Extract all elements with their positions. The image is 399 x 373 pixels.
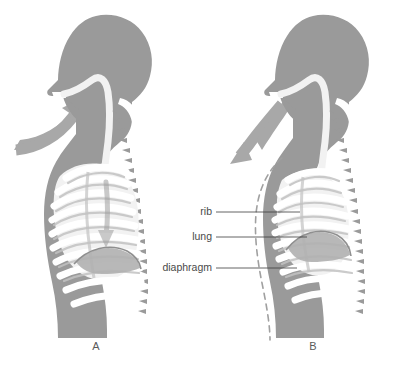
callout-diaphragm-label: diaphragm — [162, 261, 212, 273]
callout-lung-label: lung — [192, 230, 212, 242]
breathing-diagram-figure: A — [0, 0, 399, 373]
panel-b-letter: B — [309, 340, 316, 352]
diagram-canvas: A — [0, 0, 399, 373]
callout-rib-label: rib — [200, 205, 212, 217]
panel-a-letter: A — [92, 340, 100, 352]
